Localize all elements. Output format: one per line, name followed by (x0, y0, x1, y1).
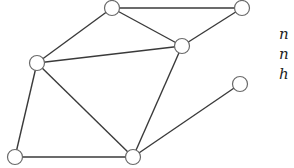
node-bottom-mid (126, 150, 141, 165)
edge-top-mid-right (112, 8, 182, 46)
node-bottom-left (8, 150, 23, 165)
node-top (105, 1, 120, 16)
node-top-right (235, 1, 250, 16)
graph-edges (15, 8, 242, 157)
side-text-line-1: n (279, 27, 289, 42)
side-text-line-2: n (279, 47, 289, 62)
node-left (30, 56, 45, 71)
edge-top-right-mid-right (182, 8, 242, 46)
side-text-line-3: h (279, 67, 289, 82)
graph-nodes (8, 1, 250, 165)
edge-left-bottom-left (15, 63, 37, 157)
node-mid-right (175, 39, 190, 54)
edge-left-mid-right (37, 46, 182, 63)
node-right-lower (233, 77, 248, 92)
edge-left-bottom-mid (37, 63, 133, 157)
edge-top-left (37, 8, 112, 63)
graph-diagram (0, 0, 294, 168)
